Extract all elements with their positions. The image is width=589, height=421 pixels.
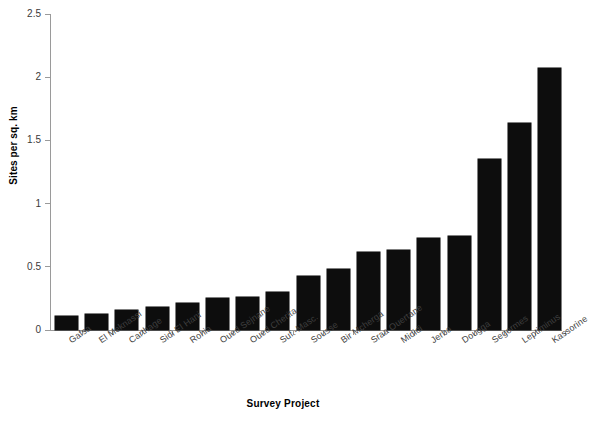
- y-tick-label: 0.5: [27, 260, 41, 273]
- plot-area: [50, 14, 562, 330]
- bar: [538, 68, 561, 330]
- bar: [417, 238, 440, 330]
- bar: [478, 159, 501, 330]
- bar: [508, 123, 531, 330]
- y-axis-title: Sites per sq. km: [8, 86, 19, 206]
- y-tick-label: 0: [35, 323, 41, 336]
- y-tick-label: 1.5: [27, 133, 41, 146]
- y-tick-label: 2: [35, 70, 41, 83]
- bar: [55, 316, 78, 330]
- x-axis-title: Survey Project: [0, 398, 566, 409]
- y-tick-label: 1: [35, 197, 41, 210]
- bar: [448, 236, 471, 330]
- y-tick-label: 2.5: [27, 7, 41, 20]
